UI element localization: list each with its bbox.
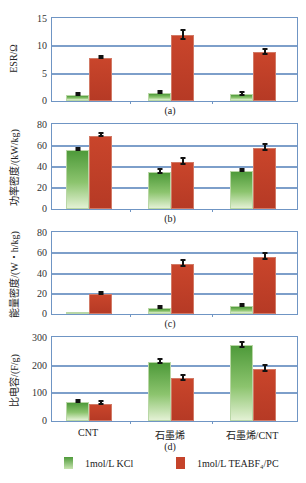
- error-bar-cap: [157, 358, 162, 360]
- gridline: [52, 365, 297, 367]
- panel-label: (c): [164, 318, 175, 329]
- bar-teabf4-2: [253, 148, 276, 209]
- error-bar-cap: [239, 305, 244, 307]
- x-tick: [212, 209, 213, 212]
- y-tick-label: 100: [32, 387, 47, 398]
- error-bar-cap: [75, 94, 80, 96]
- error-bar-cap: [180, 38, 185, 40]
- y-axis-title: 能量密度/(W・h/kg): [6, 229, 21, 320]
- category-label-cnt: CNT: [78, 427, 98, 438]
- bar-teabf4-0: [89, 58, 112, 101]
- error-bar-cap: [262, 364, 267, 366]
- bar-kcl-0: [66, 402, 89, 421]
- error-bar-cap: [180, 29, 185, 31]
- bar-teabf4-0: [89, 136, 112, 210]
- y-tick-label: 40: [37, 267, 47, 278]
- x-tick: [212, 421, 213, 424]
- x-tick: [130, 421, 131, 424]
- legend-swatch-red-icon: [176, 457, 185, 469]
- error-bar-cap: [180, 163, 185, 165]
- error-bar-cap: [98, 57, 103, 59]
- error-bar-cap: [98, 293, 103, 295]
- y-tick-label: 40: [37, 161, 47, 172]
- category-label-graphene-cnt: 石墨烯/CNT: [226, 427, 279, 442]
- y-tick-label: 80: [37, 119, 47, 130]
- plot-area: [51, 336, 298, 422]
- bar-kcl-1: [148, 172, 171, 209]
- legend-swatch-green-icon: [64, 457, 73, 469]
- error-bar-cap: [262, 149, 267, 151]
- error-bar-cap: [262, 143, 267, 145]
- y-tick-label: 0: [42, 203, 47, 214]
- x-tick: [212, 101, 213, 104]
- legend-label-teabf4: 1mol/L TEABF₄/PC: [197, 458, 279, 469]
- panel-label: (b): [164, 213, 176, 224]
- bar-kcl-1: [148, 93, 171, 101]
- error-bar-cap: [157, 168, 162, 170]
- y-tick-label: 300: [32, 332, 47, 343]
- x-tick: [212, 314, 213, 317]
- bar-teabf4-2: [253, 369, 276, 421]
- error-bar-cap: [180, 157, 185, 159]
- error-bar-cap: [262, 370, 267, 372]
- error-bar-cap: [262, 53, 267, 55]
- bar-teabf4-1: [171, 162, 194, 209]
- y-tick-label: 0: [42, 95, 47, 106]
- error-bar-cap: [262, 252, 267, 254]
- legend-label-kcl: 1mol/L KCl: [85, 458, 133, 469]
- error-bar-cap: [239, 346, 244, 348]
- error-bar-cap: [239, 94, 244, 96]
- error-bar-cap: [98, 135, 103, 137]
- y-tick-label: 80: [37, 227, 47, 238]
- y-tick-label: 200: [32, 359, 47, 370]
- error-bar-cap: [98, 403, 103, 405]
- error-bar-cap: [157, 172, 162, 174]
- category-label-graphene: 石墨烯: [155, 427, 185, 442]
- plot-area: [51, 123, 298, 210]
- error-bar-cap: [98, 400, 103, 402]
- bar-kcl-0: [66, 95, 89, 101]
- panel-label: (d): [164, 441, 176, 452]
- error-bar-cap: [239, 170, 244, 172]
- bar-teabf4-0: [89, 404, 112, 421]
- plot-area: [51, 17, 298, 102]
- y-tick-label: 5: [42, 67, 47, 78]
- bar-kcl-2: [230, 171, 253, 209]
- x-tick: [130, 209, 131, 212]
- error-bar-cap: [157, 307, 162, 309]
- error-bar-cap: [180, 265, 185, 267]
- y-tick-label: 15: [37, 13, 47, 24]
- bar-kcl-2: [230, 306, 253, 314]
- y-tick-label: 0: [42, 415, 47, 426]
- y-tick-label: 20: [37, 182, 47, 193]
- error-bar-cap: [180, 379, 185, 381]
- plot-area: [51, 231, 298, 315]
- panel-label: (a): [164, 105, 175, 116]
- error-bar-cap: [157, 362, 162, 364]
- error-bar-cap: [75, 149, 80, 151]
- bar-kcl-0: [66, 312, 89, 314]
- bar-kcl-0: [66, 150, 89, 209]
- bar-teabf4-2: [253, 257, 276, 314]
- y-axis-title: ESR/Ω: [8, 13, 19, 105]
- x-tick: [130, 101, 131, 104]
- bar-kcl-1: [148, 362, 171, 421]
- error-bar-cap: [180, 259, 185, 261]
- error-bar-cap: [180, 374, 185, 376]
- y-tick-label: 20: [37, 287, 47, 298]
- error-bar-cap: [75, 401, 80, 403]
- bar-teabf4-1: [171, 264, 194, 314]
- legend-item-teabf4: 1mol/L TEABF₄/PC: [176, 457, 279, 469]
- bar-kcl-2: [230, 345, 253, 421]
- bar-teabf4-0: [89, 294, 112, 314]
- error-bar-cap: [262, 48, 267, 50]
- bar-teabf4-1: [171, 35, 194, 101]
- y-tick-label: 0: [42, 308, 47, 319]
- bar-teabf4-1: [171, 378, 194, 421]
- bar-teabf4-2: [253, 52, 276, 101]
- gridline: [52, 252, 297, 254]
- y-axis-title: 比电容/(F/g): [6, 334, 21, 427]
- error-bar-cap: [157, 92, 162, 94]
- error-bar-cap: [262, 258, 267, 260]
- y-tick-label: 60: [37, 140, 47, 151]
